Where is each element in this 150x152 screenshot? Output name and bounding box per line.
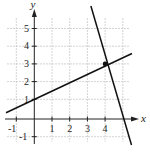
- y-axis-arrow-icon: [32, 9, 37, 17]
- svg-text:3: 3: [24, 58, 29, 69]
- svg-text:1: 1: [50, 123, 55, 134]
- intersection-point: [103, 62, 108, 67]
- ticks: [16, 29, 105, 137]
- line-2: [91, 6, 132, 145]
- x-axis-arrow-icon: [131, 117, 139, 122]
- graph: -1 1 2 3 4 -1 1 2 3 4 5 x y: [0, 0, 150, 152]
- svg-text:4: 4: [24, 40, 29, 51]
- y-tick-labels: -1 1 2 3 4 5: [19, 23, 29, 142]
- svg-text:3: 3: [85, 123, 90, 134]
- svg-text:2: 2: [24, 76, 29, 87]
- y-axis-label: y: [30, 0, 36, 10]
- svg-text:-1: -1: [19, 131, 27, 142]
- svg-text:5: 5: [24, 23, 29, 34]
- svg-text:4: 4: [103, 123, 108, 134]
- svg-text:-1: -1: [8, 123, 16, 134]
- svg-text:2: 2: [67, 123, 72, 134]
- x-axis-label: x: [140, 112, 146, 124]
